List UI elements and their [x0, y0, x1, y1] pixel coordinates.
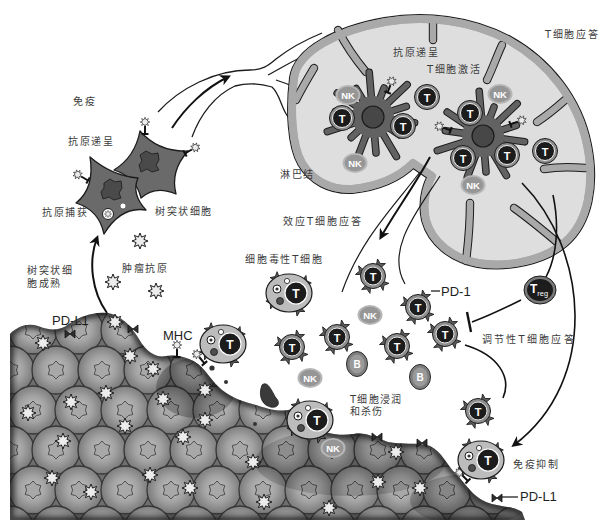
granule: [298, 425, 305, 432]
t-cell: T: [533, 139, 558, 164]
cell-label: NK: [303, 373, 317, 384]
t-cell: T: [495, 143, 520, 168]
nk-cell: NK: [461, 175, 486, 195]
cell-label: NK: [326, 443, 340, 454]
label-lymph-node: 淋巴结: [280, 169, 315, 181]
arrow-dendritic-maturation: [92, 238, 107, 313]
antigen-receptor-icon: [71, 168, 90, 185]
label-tumor-antigen: 肿瘤抗原: [122, 263, 168, 275]
cell-label: NK: [466, 180, 480, 191]
granule: [476, 445, 481, 450]
effector-t-cell: T: [400, 290, 434, 324]
cytotoxic-t-cell: T: [266, 272, 312, 316]
nk-cell: NK: [321, 438, 346, 458]
t-cell: T: [415, 85, 440, 110]
cytotoxic-t-cell: T: [200, 323, 246, 367]
nucleus: [139, 151, 159, 172]
nk-cell: NK: [488, 84, 513, 104]
cell-label: NK: [363, 310, 377, 321]
cell-label: T: [467, 108, 474, 120]
cell-label: T: [460, 153, 467, 165]
cell-label: B: [353, 359, 360, 370]
label-regulatory-t-cell-response: 调节性T细胞应答: [482, 334, 576, 346]
effector-t-cell: T: [427, 317, 461, 351]
label-pd-1: PD-1: [441, 285, 471, 299]
effector-t-cell: T: [355, 259, 389, 293]
label-t-cell-activation: T细胞激活: [427, 64, 481, 76]
cell-label: T: [442, 329, 449, 341]
label-t-cell-response: T细胞应答: [545, 29, 599, 41]
granule: [211, 349, 218, 356]
cell-label: T: [484, 454, 492, 468]
t-cell: T: [330, 106, 355, 131]
cell-label: T: [226, 338, 234, 352]
cell-label: T: [400, 121, 407, 133]
cell-label: NK: [341, 90, 355, 101]
label-mhc: MHC: [163, 329, 193, 343]
diagram-canvas: NKNKNKNKTTTTTTTTTTTTTTNKNKBBTTTNKTTreg 免…: [0, 0, 614, 530]
t-cell: T: [391, 114, 416, 139]
tumor-antigen-icon: [148, 283, 164, 299]
label-cytotoxic-t-cell: 细胞毒性T细胞: [245, 254, 324, 266]
label-pd-l1-top: PD-L1: [52, 314, 89, 328]
cell-label: T: [504, 150, 511, 162]
regulatory-response-arc: [465, 345, 506, 398]
nk-cell: NK: [358, 305, 383, 325]
label-antigen-presentation: 抗原递呈: [68, 136, 114, 148]
effector-t-cell: T: [379, 329, 413, 363]
label-line: 和杀伤: [350, 406, 402, 418]
label-immune-suppression: 免疫抑制: [513, 459, 559, 471]
cell-label: NK: [348, 158, 362, 169]
label-pd-l1-bottom: PD-L1: [520, 490, 557, 504]
cell-label: T: [394, 341, 401, 353]
cell-label: T: [424, 92, 431, 104]
cell-label: T: [370, 271, 377, 283]
b-cell: B: [410, 365, 431, 390]
tumor-antigen-icon: [105, 274, 121, 290]
regulatory-t-cell: Treg: [524, 276, 556, 304]
nucleus: [472, 125, 494, 147]
nk-cell: NK: [343, 153, 368, 173]
label-antigen-capture: 抗原捕获: [42, 207, 88, 219]
cell-label: T: [292, 287, 300, 301]
cell-label: T: [475, 406, 482, 418]
effector-t-cell: T: [460, 394, 494, 428]
cell-label: T: [313, 414, 321, 428]
treg-inhibition-line: [472, 300, 521, 322]
effector-t-cell: T: [274, 330, 308, 364]
cell-label: NK: [493, 89, 507, 100]
granule: [284, 278, 289, 283]
label-effector-t-cell-response: 效应T细胞应答: [283, 216, 363, 228]
t-cell: T: [451, 146, 476, 171]
label-antigen-presentation-node: 抗原递呈: [393, 47, 439, 59]
antigen-receptor-icon: [140, 117, 150, 134]
granule: [218, 329, 223, 334]
granule: [305, 405, 310, 410]
cell-label: T: [289, 342, 296, 354]
nk-cell: NK: [336, 85, 361, 105]
nucleus: [362, 106, 384, 128]
label-t-cell-infiltration-killing: T细胞浸润 和杀伤: [350, 394, 402, 418]
cell-label: T: [339, 113, 346, 125]
label-line: T细胞浸润: [350, 394, 402, 406]
label-dendritic-cell: 树突状细胞: [155, 206, 213, 218]
cell-label: B: [416, 372, 423, 383]
label-line: 树突状细: [27, 264, 73, 277]
label-dendritic-cell-maturation: 树突状细 胞成熟: [27, 264, 73, 290]
tumor-antigen-icon: [132, 233, 148, 249]
nk-cell: NK: [298, 368, 323, 388]
t-cell: T: [458, 101, 483, 126]
cell-label: T: [542, 146, 549, 158]
cell-label: T: [334, 332, 341, 344]
inhibition-bar: [467, 312, 471, 332]
granule: [469, 465, 476, 472]
label-line: 胞成熟: [27, 277, 73, 290]
b-cell: B: [347, 352, 368, 377]
cell-label: T: [415, 302, 422, 314]
label-immunity: 免疫: [73, 96, 97, 108]
effector-t-cell: T: [319, 320, 353, 354]
granule: [277, 298, 284, 305]
antigen-receptor-icon: [183, 141, 202, 158]
